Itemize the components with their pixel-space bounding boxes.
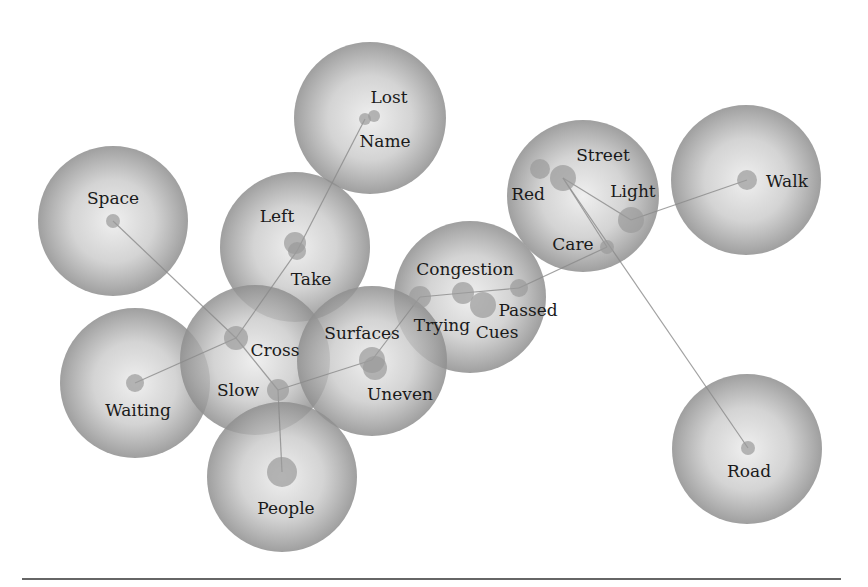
node-label-name: Name [359,131,410,151]
concept-network-diagram: LostNameSpaceLeftTakeRedStreetLightCareW… [0,0,868,587]
node-people [267,457,297,487]
node-label-congestion: Congestion [416,259,513,279]
node-label-people: People [257,498,314,518]
node-care [600,240,614,254]
node-label-space: Space [87,188,139,208]
node-label-lost: Lost [370,87,407,107]
node-label-passed: Passed [498,300,557,320]
node-label-surfaces: Surfaces [324,323,399,343]
node-label-red: Red [511,184,545,204]
node-trying [409,286,431,308]
node-label-road: Road [727,461,771,481]
bottom-divider-line [22,578,841,580]
node-light [618,207,644,233]
node-space [106,214,120,228]
node-label-uneven: Uneven [367,384,433,404]
node-take [288,242,306,260]
node-road [741,441,755,455]
node-street [550,165,576,191]
node-congestion [452,282,474,304]
node-label-cross: Cross [251,340,300,360]
node-label-walk: Walk [766,171,809,191]
node-cross [224,326,248,350]
node-cues [470,292,496,318]
node-uneven [363,356,387,380]
node-waiting [126,374,144,392]
node-label-care: Care [552,234,593,254]
node-walk [737,170,757,190]
node-label-light: Light [610,181,656,201]
node-passed [510,279,528,297]
node-label-slow: Slow [217,380,259,400]
node-red [530,159,550,179]
node-name [359,113,371,125]
node-label-street: Street [576,145,630,165]
node-label-take: Take [291,269,332,289]
node-slow [267,379,289,401]
node-label-waiting: Waiting [105,400,171,420]
node-label-cues: Cues [476,322,519,342]
node-label-left: Left [260,206,295,226]
node-label-trying: Trying [414,315,470,335]
